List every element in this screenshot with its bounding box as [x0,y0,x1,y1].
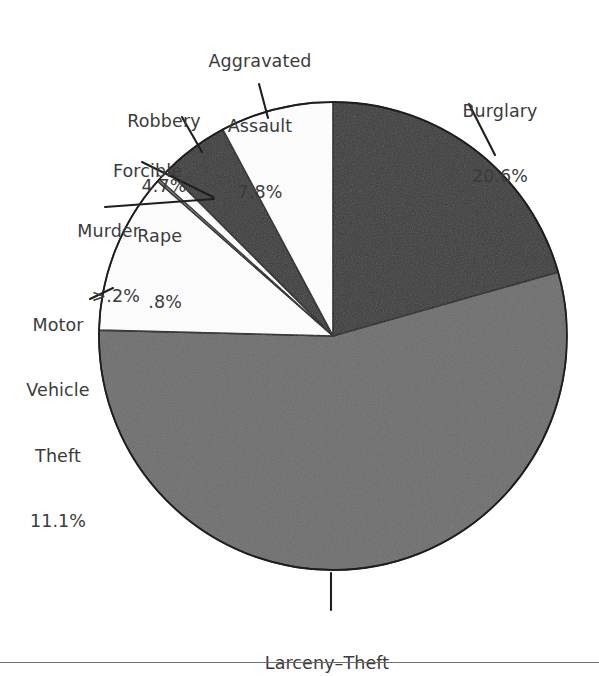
pie-label-motor-vehicle-theft-line1: Motor [10,315,106,337]
pie-label-motor-vehicle-theft-line3: Theft [10,446,106,468]
pie-label-motor-vehicle-theft: Motor Vehicle Theft 11.1% [10,272,106,576]
pie-chart-figure: Aggravated Assault 7.8% Robbery 4.7% For… [0,0,599,676]
pie-label-larceny-theft: Larceny–Theft 54.8% [232,610,422,676]
footer-divider [0,662,599,663]
pie-label-motor-vehicle-theft-line2: Vehicle [10,380,106,402]
pie-label-burglary: Burglary 20.6% [430,58,570,232]
pie-label-burglary-value: 20.6% [430,166,570,188]
pie-label-motor-vehicle-theft-value: 11.1% [10,511,106,533]
pie-label-murder-line1: Murder [20,221,140,243]
pie-label-larceny-theft-line1: Larceny–Theft [232,653,422,675]
pie-label-burglary-line1: Burglary [430,101,570,123]
